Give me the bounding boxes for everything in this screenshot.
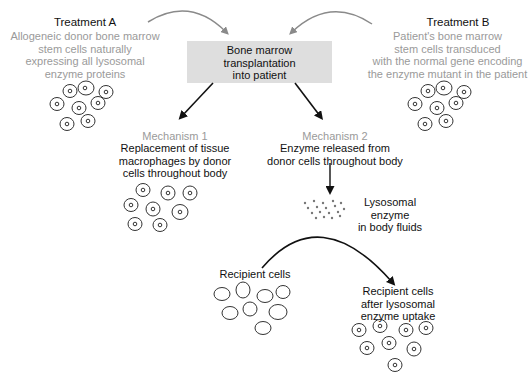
text-line: after lysosomal xyxy=(348,298,448,311)
text-line: Patient's bone marrow xyxy=(365,30,530,43)
text-line: the enzyme mutant in the patient xyxy=(365,68,530,81)
text-line: with the normal gene encoding xyxy=(365,55,530,68)
treatment-a-cells xyxy=(50,81,113,131)
text-line: cells throughout body xyxy=(105,167,245,180)
treatment-b-description: Patient's bone marrow stem cells transdu… xyxy=(365,30,530,80)
treatment-b-cells xyxy=(408,81,471,131)
text-line: stem cells naturally xyxy=(5,43,165,56)
text-line: into patient xyxy=(187,69,332,82)
text-line: enzyme proteins xyxy=(5,68,165,81)
treatment-a-description: Allogeneic donor bone marrow stem cells … xyxy=(5,30,165,80)
text-line: transplantation xyxy=(187,57,332,70)
arrow-treatment-b-to-box xyxy=(292,12,372,32)
text-line: enzyme uptake xyxy=(348,310,448,323)
mechanism-2-description: Enzyme released from donor cells through… xyxy=(260,142,410,167)
text-line: Recipient cells xyxy=(348,285,448,298)
text-line: Replacement of tissue xyxy=(105,142,245,155)
recipient-after-label: Recipient cells after lysosomal enzyme u… xyxy=(348,285,448,323)
mechanism-1-title: Mechanism 1 xyxy=(120,130,230,143)
enzyme-label: Lysosomal enzyme in body fluids xyxy=(345,196,435,234)
text-line: Allogeneic donor bone marrow xyxy=(5,30,165,43)
box-text: Bone marrow transplantation into patient xyxy=(187,44,332,82)
treatment-a-title: Treatment A xyxy=(45,16,125,29)
text-line: in body fluids xyxy=(345,221,435,234)
mechanism-2-title: Mechanism 2 xyxy=(280,130,390,143)
recipient-cells-after-uptake xyxy=(352,320,433,372)
treatment-b-title: Treatment B xyxy=(418,16,498,29)
mechanism-1-cells xyxy=(124,184,197,232)
enzyme-dots xyxy=(304,200,345,219)
text-line: Bone marrow xyxy=(187,44,332,57)
text-line: stem cells transduced xyxy=(365,43,530,56)
text-line: Enzyme released from xyxy=(260,142,410,155)
text-line: Lysosomal xyxy=(345,196,435,209)
recipient-cells-label: Recipient cells xyxy=(210,268,300,281)
text-line: enzyme xyxy=(345,209,435,222)
text-line: expressing all lysosomal xyxy=(5,55,165,68)
mechanism-1-description: Replacement of tissue macrophages by don… xyxy=(105,142,245,180)
arrow-treatment-a-to-box xyxy=(148,11,226,32)
recipient-cells-empty xyxy=(214,282,290,335)
arrow-box-to-mechanism-2 xyxy=(295,83,320,116)
text-line: donor cells throughout body xyxy=(260,155,410,168)
text-line: macrophages by donor xyxy=(105,155,245,168)
arrow-box-to-mechanism-1 xyxy=(182,83,213,116)
